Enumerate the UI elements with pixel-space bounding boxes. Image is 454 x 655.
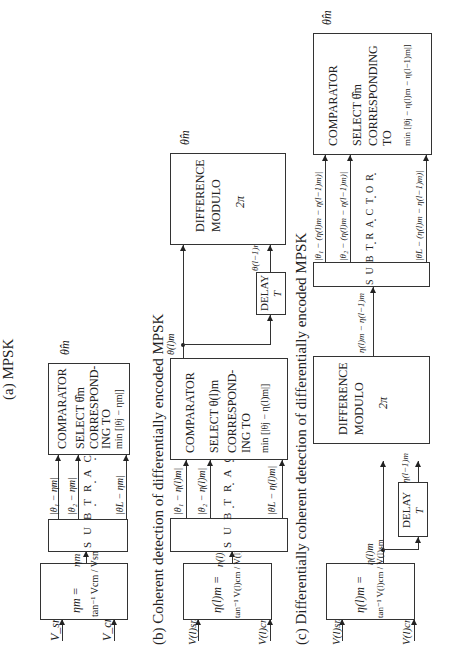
arctan-eq-line1: ηm = <box>69 587 83 613</box>
arrow-icon <box>423 155 429 161</box>
arctan-box-b: η(l)m = tan⁻¹ V(l)cm / V(l)sm <box>183 563 272 620</box>
caption-b: (b) Coherent detection of differentially… <box>150 314 167 645</box>
diff-out-label: η(l)m − η(l−1)m <box>356 293 367 353</box>
arctan-eq-line2: tan⁻¹ Vcm / Vsm <box>89 548 101 617</box>
difference-label: MODULO <box>352 382 366 435</box>
subtractor-box-c: SUBTRACTOR <box>313 262 430 287</box>
theta-l-b: θ(l)m <box>165 333 177 355</box>
diff-line-2 <box>350 155 351 262</box>
comparator-title: COMPARATOR <box>183 372 197 453</box>
arrow-icon <box>75 455 81 461</box>
ellipsis: · · · · · <box>368 141 383 245</box>
diff-1-c: |θ₁ − (η(l)m − η(l−1)m)| <box>313 172 324 261</box>
subtractor-box-b: SUBTRACTOR <box>170 518 288 552</box>
arctan-eq-line1: η(l)m = <box>210 576 224 613</box>
comparator-min: min [|θj − ηm|] <box>113 389 125 449</box>
subtractor-box-a: SUBTRACTOR <box>48 519 128 552</box>
arrow-icon <box>207 460 213 466</box>
arrow-icon <box>370 287 376 293</box>
comparator-title: COMPARATOR <box>326 65 340 146</box>
comparator-line: ING TO <box>239 413 253 453</box>
difference-label: MODULO <box>209 179 223 232</box>
arrow-icon <box>123 455 129 461</box>
arrow-icon <box>415 537 421 543</box>
arrow-icon <box>267 315 273 321</box>
eta-l-minus-1-c: η(l−1)m <box>400 453 411 483</box>
comparator-line: CORRESPONDING <box>366 45 380 146</box>
difference-box-c: DIFFERENCE MODULO 2π <box>313 356 430 444</box>
arrow-icon <box>180 245 186 251</box>
difference-modulus: 2π <box>376 397 390 409</box>
figure-rotated: (a) MPSK V_sm V_cm ηm = tan⁻¹ Vcm / Vsm … <box>0 0 454 655</box>
diff-line-L <box>126 455 127 519</box>
diff-L-c: |θL − (η(l)m − η(l−1)m)| <box>414 170 425 261</box>
diff-2-a: |θ₂ − ηm| <box>66 477 78 515</box>
diff-out-line <box>373 287 374 356</box>
diff-line-2 <box>78 455 79 519</box>
diff-L-a: |θL − ηm| <box>114 475 126 515</box>
branch-line <box>183 344 270 345</box>
diff-line-2 <box>210 460 211 518</box>
arrow-icon <box>55 455 61 461</box>
eta-label-a: ηm <box>70 554 83 567</box>
eta-label-c: η(l)m <box>364 543 376 565</box>
delay-period: T <box>413 508 426 514</box>
arrow-icon <box>183 460 189 466</box>
arctan-eq-line1: η(l)m = <box>353 576 367 613</box>
difference-modulus: 2π <box>233 196 247 208</box>
diff-line-L <box>426 155 427 262</box>
diff-1-b: |θ₁ − η(l)m| <box>172 468 184 515</box>
arrow-icon <box>347 155 353 161</box>
comparator-box-c: COMPARATOR SELECT θ̂m CORRESPONDING TO m… <box>313 33 432 155</box>
comparator-line: SELECT θ̂m <box>73 387 87 449</box>
difference-label: DIFFERENCE <box>193 159 207 232</box>
diff-1-a: |θ₁ − ηm| <box>48 477 60 515</box>
theta-l-minus-1-b: θ(l−1)m <box>250 241 261 271</box>
delay-period: T <box>271 291 284 297</box>
delay-label: DELAY <box>258 275 271 311</box>
arrow-icon <box>279 460 285 466</box>
arrow-icon <box>267 245 273 251</box>
output-theta-c: θ̂m <box>320 10 334 25</box>
delay-box-c: DELAY T <box>398 482 428 537</box>
diff-line-1 <box>325 155 326 262</box>
comparator-line: ING TO <box>99 409 113 449</box>
comparator-box-b: COMPARATOR SELECT θ(l)m CORRESPOND- ING … <box>170 358 288 460</box>
delay-box-b: DELAY T <box>256 272 286 315</box>
comparator-line: SELECT θ̂m <box>350 84 364 146</box>
comparator-box-a: COMPARATOR SELECT θ̂m CORRESPOND- ING TO… <box>48 363 130 455</box>
arrow-icon <box>415 461 421 467</box>
output-theta-a: θ̂m <box>58 340 72 355</box>
arrow-icon <box>380 461 386 467</box>
difference-box-b: DIFFERENCE MODULO 2π <box>170 153 286 245</box>
diff-2-c: |θ₂ − (η(l)m − η(l−1)m)| <box>338 172 349 261</box>
diff-2-b: |θ₂ − η(l)m| <box>196 468 208 515</box>
diff-L-b: |θL − η(l)m| <box>266 466 278 515</box>
comparator-min: min [|θj − η(l)m − η(l−1)m|] <box>402 44 413 146</box>
arctan-box-c: η(l)m = tan⁻¹ V(l)cm / V(l)sm <box>326 563 415 620</box>
arrow-icon <box>322 155 328 161</box>
comparator-title: COMPARATOR <box>55 368 69 449</box>
diff-line-L <box>282 460 283 518</box>
difference-label: DIFFERENCE <box>336 362 350 435</box>
arctan-box-a: ηm = tan⁻¹ Vcm / Vsm <box>40 563 128 620</box>
caption-a: (a) MPSK <box>0 339 17 400</box>
comparator-min: min [|θj − η(l)m|] <box>259 384 271 453</box>
output-theta-b: θ̂m <box>178 130 192 145</box>
comparator-line: SELECT θ(l)m <box>207 380 221 453</box>
comparator-line: TO <box>380 130 394 146</box>
branch-line <box>383 549 418 550</box>
diff-line-1 <box>186 460 187 518</box>
delay-label: DELAY <box>400 492 413 528</box>
comparator-line: CORRESPOND- <box>225 370 239 453</box>
theta-line <box>183 245 184 358</box>
caption-c: (c) Differentially coherent detection of… <box>293 233 310 645</box>
